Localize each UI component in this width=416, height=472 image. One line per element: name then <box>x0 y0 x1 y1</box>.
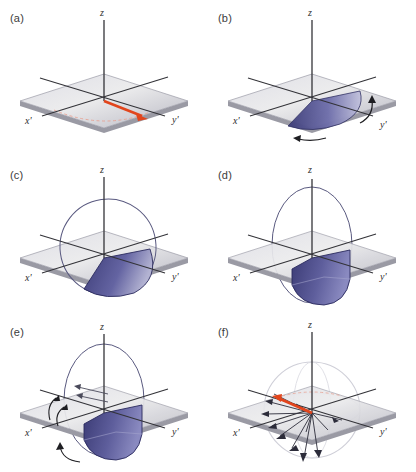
panel-a: (a) z x' y' <box>0 0 208 157</box>
panel-c-graphic: z x' y' <box>0 157 208 314</box>
panel-e: (e) <box>0 314 208 472</box>
panel-f: (f) <box>208 314 416 472</box>
axis-label-x-c: x' <box>24 272 32 283</box>
inplane-arrowhead-e-1 <box>74 384 81 390</box>
axis-label-z-f: z <box>307 319 312 330</box>
rotation-arrow-b-2 <box>298 138 326 140</box>
axis-label-x-b: x' <box>232 115 240 126</box>
axis-label-y-f: y' <box>379 426 387 437</box>
panel-e-graphic: z x' y' <box>0 314 208 471</box>
axis-label-z-d: z <box>307 164 312 175</box>
rotation-arrowhead-e-3 <box>56 442 64 450</box>
axis-label-y-b: y' <box>379 119 387 130</box>
axis-label-x-d: x' <box>232 272 240 283</box>
panel-f-graphic: z x' y' <box>208 314 416 471</box>
axis-label-z-c: z <box>99 164 104 175</box>
axis-label-x-a: x' <box>24 115 32 126</box>
panel-a-graphic: z x' y' <box>0 0 208 157</box>
panel-c: (c) z x' y' <box>0 157 208 314</box>
panel-b-graphic: z x' y' <box>208 0 416 157</box>
panel-d-graphic: z x' y' <box>208 157 416 314</box>
axis-label-y-c: y' <box>171 271 179 282</box>
figure-container: (a) z x' y' <box>0 0 416 472</box>
axis-label-y-a: y' <box>171 114 179 125</box>
axis-label-z-a: z <box>99 7 104 18</box>
axis-label-x-e: x' <box>24 427 32 438</box>
axis-label-z-b: z <box>307 7 312 18</box>
rotation-arrowhead-e-1 <box>53 395 60 401</box>
axis-label-z-e: z <box>99 321 104 332</box>
axis-label-y-e: y' <box>171 426 179 437</box>
panel-b: (b) <box>208 0 416 157</box>
panel-d: (d) z x' y' <box>208 157 416 314</box>
rotation-arrowhead-b-2 <box>293 135 301 142</box>
axis-label-x-f: x' <box>232 427 240 438</box>
axis-label-y-d: y' <box>379 271 387 282</box>
